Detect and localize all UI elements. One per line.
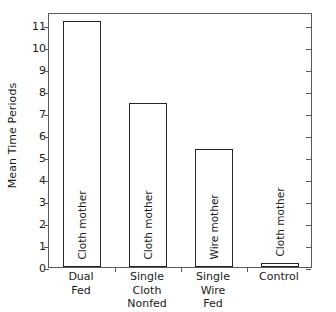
y-axis-tick-mark-right [306, 71, 311, 72]
y-axis-title-text: Mean Time Periods [7, 82, 20, 188]
bar [261, 263, 299, 267]
bars-layer: Cloth motherCloth motherWire motherCloth… [49, 14, 311, 267]
y-axis-tick-label: 7 [39, 109, 46, 120]
y-axis-tick-mark [44, 225, 49, 226]
x-axis-category-label-line: Single [180, 270, 246, 284]
x-axis-category-label-line: Fed [180, 297, 246, 311]
bar-chart: Mean Time Periods 01234567891011 Cloth m… [0, 0, 336, 312]
y-axis-tick-label: 10 [32, 43, 46, 54]
bar [63, 21, 101, 267]
x-axis-category-label: SingleClothNonfed [114, 270, 180, 311]
y-axis-tick-mark [44, 71, 49, 72]
bar-annotation: Cloth mother [275, 188, 286, 257]
y-axis-tick-label: 3 [39, 197, 46, 208]
y-axis-title: Mean Time Periods [0, 0, 26, 270]
y-axis-tick-mark-right [306, 247, 311, 248]
bar [195, 149, 233, 267]
y-axis-tick-mark [44, 247, 49, 248]
y-axis-tick-label: 8 [39, 87, 46, 98]
y-axis-tick-mark [44, 181, 49, 182]
y-axis-tick-mark [44, 137, 49, 138]
y-axis-tick-mark [44, 49, 49, 50]
x-axis-category-label-line: Fed [48, 284, 114, 298]
y-axis-tick-label: 5 [39, 153, 46, 164]
x-axis-category-label-line: Single [114, 270, 180, 284]
y-axis-tick-mark-right [306, 181, 311, 182]
y-axis-tick-mark-right [306, 159, 311, 160]
x-axis-category-label-line: Dual [48, 270, 114, 284]
y-axis-tick-mark-right [306, 27, 311, 28]
y-axis-tick-mark-right [306, 93, 311, 94]
y-axis-tick-label: 9 [39, 65, 46, 76]
x-axis-category-label: Control [246, 270, 312, 284]
x-axis-category-label-line: Wire [180, 284, 246, 298]
x-axis-category-label: DualFed [48, 270, 114, 297]
plot-area: Cloth motherCloth motherWire motherCloth… [48, 13, 312, 268]
y-axis-tick-label: 11 [32, 21, 46, 32]
y-axis-tick-label: 0 [39, 263, 46, 274]
y-axis-tick-mark [44, 115, 49, 116]
x-axis-category-label-line: Cloth [114, 284, 180, 298]
y-axis-tick-label: 6 [39, 131, 46, 142]
y-axis-tick-mark-right [306, 225, 311, 226]
y-axis-tick-label: 4 [39, 175, 46, 186]
x-axis-category-label: SingleWireFed [180, 270, 246, 311]
y-axis-tick-labels: 01234567891011 [24, 0, 46, 312]
y-axis-tick-mark [44, 203, 49, 204]
y-axis-tick-mark-right [306, 137, 311, 138]
y-axis-tick-mark-right [306, 203, 311, 204]
x-axis-category-label-line: Control [246, 270, 312, 284]
y-axis-tick-label: 2 [39, 219, 46, 230]
bar [129, 103, 167, 267]
x-axis-category-labels: DualFedSingleClothNonfedSingleWireFedCon… [48, 270, 312, 312]
x-axis-category-label-line: Nonfed [114, 297, 180, 311]
y-axis-tick-mark-right [306, 115, 311, 116]
y-axis-tick-mark [44, 93, 49, 94]
y-axis-tick-label: 1 [39, 241, 46, 252]
y-axis-tick-mark [44, 27, 49, 28]
y-axis-tick-mark-right [306, 49, 311, 50]
y-axis-tick-mark [44, 159, 49, 160]
